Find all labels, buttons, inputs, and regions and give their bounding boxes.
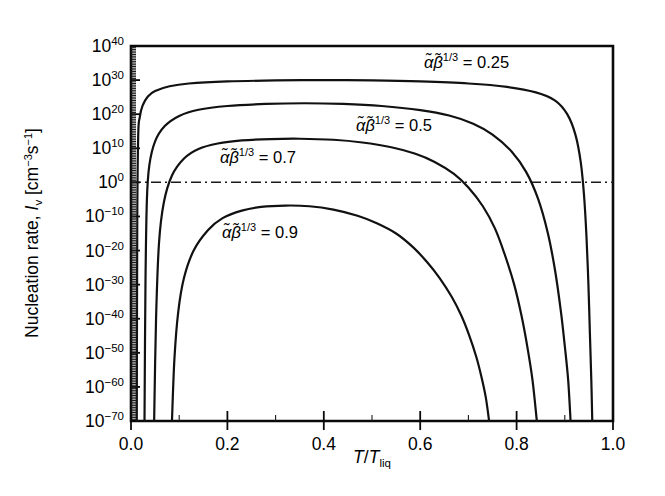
annotation-beta-tilde: β̃ [364,115,375,134]
y-tick-exponent: 40 [111,35,124,47]
curve-annotation-0-5: α̃β̃1/3 = 0.5 [356,114,432,134]
x-tick-label: 0.2 [215,434,239,454]
annotation-exponent: 1/3 [443,51,458,63]
y-title-units-mid: s [22,145,42,154]
annotation-equals: = 0.7 [254,148,296,166]
y-tick-mantissa: 10 [85,411,105,431]
annotation-equals: = 0.5 [390,116,432,134]
x-tick-label: 0.8 [504,434,528,454]
y-tick-mantissa: 10 [92,138,112,158]
y-tick-exponent: 10 [111,137,124,149]
y-tick-exponent: −50 [104,342,124,354]
y-tick-mantissa: 10 [98,172,118,192]
y-tick-mantissa: 10 [92,104,112,124]
y-tick-mantissa: 10 [85,241,105,261]
y-tick-exponent: 0 [118,171,124,183]
y-tick-mantissa: 10 [92,70,112,90]
annotation-beta-tilde: β̃ [230,222,241,241]
y-tick-exponent: −60 [104,376,124,388]
y-tick-mantissa: 10 [85,343,105,363]
y-tick-mantissa: 10 [92,36,112,56]
y-tick-mantissa: 10 [85,309,105,329]
y-title-main: Nucleation rate, [22,210,42,337]
annotation-exponent: 1/3 [241,221,256,233]
annotation-exponent: 1/3 [239,146,254,158]
annotation-equals: = 0.25 [458,53,509,71]
y-title-units-open: [cm [22,167,42,200]
y-tick-mantissa: 10 [85,377,105,397]
chart-svg: 104010301020101010010−1010−2010−3010−401… [0,0,665,496]
annotation-beta-tilde: β̃ [228,147,239,166]
x-tick-label: 0.6 [408,434,432,454]
y-title-units-exp2: −1 [22,133,34,146]
y-tick-exponent: −10 [104,205,124,217]
y-tick-exponent: −70 [104,410,124,422]
curve-annotation-0-9: α̃β̃1/3 = 0.9 [222,221,298,241]
x-title-subscript: liq [379,457,391,469]
curve-annotation-0-25: α̃β̃1/3 = 0.25 [424,51,509,71]
y-tick-exponent: −30 [104,274,124,286]
y-tick-mantissa: 10 [85,206,105,226]
y-tick-mantissa: 10 [85,275,105,295]
y-tick-exponent: 30 [111,69,124,81]
y-tick-exponent: −40 [104,308,124,320]
annotation-equals: = 0.9 [256,223,298,241]
x-tick-label: 1.0 [601,434,626,454]
nucleation-rate-figure: 104010301020101010010−1010−2010−3010−401… [0,0,665,496]
x-tick-label: 0.4 [312,434,337,454]
y-tick-exponent: 20 [111,103,124,115]
x-tick-label: 0.0 [119,434,144,454]
curve-annotation-0-7: α̃β̃1/3 = 0.7 [220,146,296,166]
y-title-units-exp1: −3 [22,154,34,167]
annotation-exponent: 1/3 [375,114,390,126]
annotation-beta-tilde: β̃ [432,52,443,71]
y-title-units-close: ] [22,128,42,133]
y-tick-exponent: −20 [104,240,124,252]
